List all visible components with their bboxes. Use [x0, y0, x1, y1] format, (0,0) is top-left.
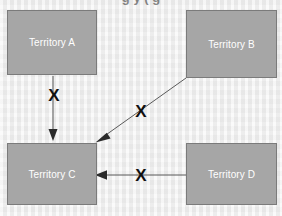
node-territory-a[interactable]: Territory A	[7, 10, 97, 75]
blocked-cross-b-to-c: X	[135, 103, 146, 120]
node-territory-b[interactable]: Territory B	[186, 10, 277, 78]
node-territory-c[interactable]: Territory C	[7, 143, 97, 205]
node-territory-d[interactable]: Territory D	[186, 143, 277, 205]
blocked-cross-d-to-c: X	[135, 167, 146, 184]
node-territory-c-label: Territory C	[28, 169, 75, 180]
node-territory-d-label: Territory D	[208, 169, 255, 180]
node-territory-a-label: Territory A	[29, 37, 75, 48]
node-territory-b-label: Territory B	[208, 39, 255, 50]
blocked-cross-a-to-c: X	[48, 87, 59, 104]
slide-canvas: g y ( g X X X Territory A Territor	[0, 0, 282, 216]
